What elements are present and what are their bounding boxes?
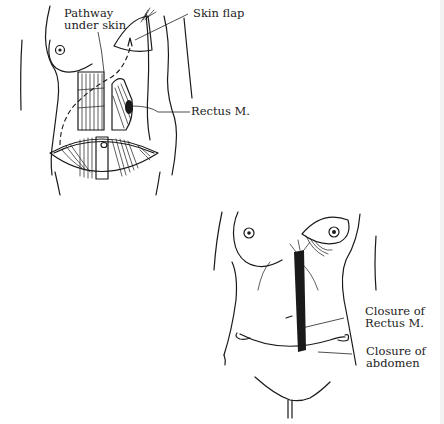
- label-closure-of-abdomen: Closure of abdomen: [366, 345, 426, 369]
- label-pathway-under-skin: Pathway under skin: [64, 7, 126, 31]
- label-skin-flap: Skin flap: [193, 7, 244, 19]
- label-closure-of-rectus: Closure of Rectus M.: [365, 305, 425, 329]
- label-rectus-muscle: Rectus M.: [191, 105, 250, 117]
- diagram-canvas: Pathway under skin Skin flap Rectus M. C…: [0, 0, 444, 424]
- page-edge: [440, 0, 444, 424]
